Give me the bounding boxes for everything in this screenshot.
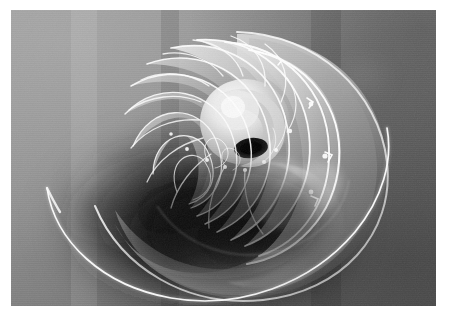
nautilus-photograph-canvas	[11, 10, 436, 306]
photo-frame: Chambered Nautilus Shell Cross-Section B…	[0, 0, 449, 319]
film-grain-overlay	[11, 10, 436, 306]
photograph	[11, 10, 436, 306]
